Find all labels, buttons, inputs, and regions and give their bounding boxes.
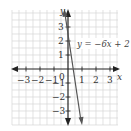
x-axis	[11, 66, 120, 72]
y-axis-label: y	[59, 6, 66, 16]
x-tick-label: 1	[79, 75, 85, 85]
x-tick-label: −3	[17, 75, 31, 85]
y-tick-label: −3	[52, 106, 66, 116]
x-tick-label: 2	[93, 75, 99, 85]
x-axis-label: x	[117, 72, 122, 82]
y-tick-label: 1	[58, 50, 64, 60]
y-tick-label: 2	[58, 36, 64, 46]
x-tick-label: −2	[31, 75, 44, 85]
y-tick-label: −2	[52, 92, 65, 102]
equation-label: y = −6x + 2	[76, 39, 130, 49]
y-tick-label: −1	[52, 78, 65, 88]
y-tick-label: 3	[58, 22, 64, 32]
x-tick-label: 3	[107, 75, 113, 85]
graph: y x −3 −2 −1 0 1 2 3 3 2 1 −1 −2 −3 y = …	[0, 0, 131, 131]
line-series	[63, 9, 84, 125]
y-axis	[65, 9, 71, 126]
